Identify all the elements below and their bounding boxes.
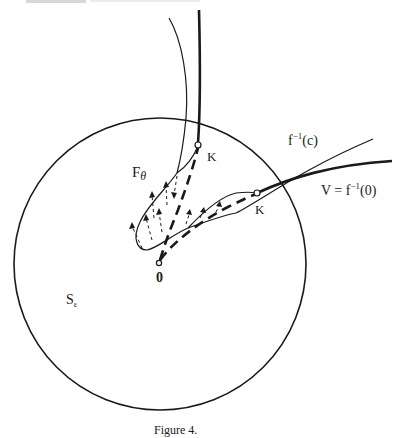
label-sphere-sub: ε: [74, 300, 77, 309]
label-variety-v-prefix: V = f: [321, 183, 350, 198]
label-k-lower: K: [255, 203, 264, 216]
fiber-f-theta-lower-link: [188, 193, 236, 228]
variety-v-dashed-lower: [160, 194, 256, 260]
label-fiber-c: f−1(c): [288, 132, 318, 148]
label-origin: 0: [156, 271, 163, 285]
label-f-theta: Fθ: [132, 165, 146, 182]
label-sphere-base: S: [66, 292, 74, 307]
point-origin: [156, 260, 161, 265]
label-variety-v: V = f−1(0): [321, 182, 376, 198]
point-k-lower: [254, 190, 260, 196]
label-k-upper: K: [207, 150, 216, 163]
figure-caption: Figure 4.: [154, 424, 197, 436]
label-variety-v-sup: −1: [350, 181, 360, 191]
variety-v-upper-branch: [198, 10, 200, 143]
label-f-theta-sub: θ: [140, 169, 146, 183]
label-fiber-c-sup: −1: [293, 131, 303, 141]
label-variety-v-arg: (0): [360, 183, 376, 198]
label-fiber-c-arg: (c): [302, 133, 318, 148]
milnor-fibration-diagram: [0, 0, 401, 438]
point-k-upper: [195, 142, 201, 148]
label-sphere: Sε: [66, 293, 77, 309]
fiber-f-theta-lower: [236, 192, 256, 193]
